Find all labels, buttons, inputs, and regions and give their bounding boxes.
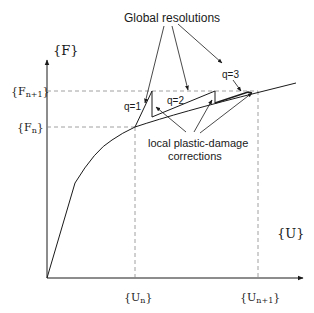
tick-un: {Un} <box>124 291 152 305</box>
tick-fn1: {Fn+1} <box>11 85 50 99</box>
arrow-global-q2 <box>172 26 188 90</box>
response-curve <box>47 83 296 278</box>
force-displacement-diagram: Global resolutions {F} {U} {Fn+1} {Fn} {… <box>0 0 314 313</box>
arrow-global-q1 <box>145 26 164 103</box>
y-axis-label: {F} <box>53 43 79 58</box>
label-q2: q=2 <box>167 95 184 106</box>
tick-un1: {Un+1} <box>240 291 280 305</box>
label-q3: q=3 <box>222 69 239 80</box>
tick-fn: {Fn} <box>17 121 44 135</box>
local-corrections-label-1: local plastic-damage <box>148 137 248 149</box>
arrow-local-2 <box>194 100 212 132</box>
local-corrections-label-2: corrections <box>168 150 222 162</box>
global-resolutions-label: Global resolutions <box>124 11 220 25</box>
arrow-global-q3 <box>178 24 222 63</box>
label-q1: q=1 <box>124 101 141 112</box>
x-axis-label: {U} <box>277 226 305 241</box>
arrow-local-1 <box>156 107 186 132</box>
arrow-q3-label <box>233 80 241 91</box>
